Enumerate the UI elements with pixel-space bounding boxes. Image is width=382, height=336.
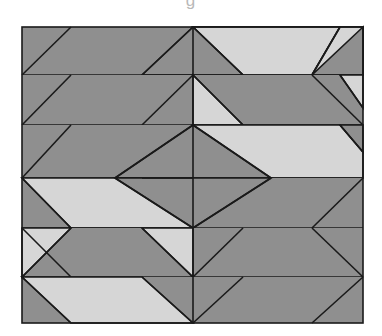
- band-1: [22, 27, 363, 75]
- band-3: [22, 125, 363, 178]
- band-4: [22, 178, 363, 228]
- figure-container: g: [0, 0, 382, 336]
- band-6: [22, 277, 363, 323]
- tessellation-figure: svg#tiling line, svg#tiling rect { strok…: [0, 0, 382, 336]
- band-5: [22, 228, 363, 277]
- band-2: [22, 75, 363, 125]
